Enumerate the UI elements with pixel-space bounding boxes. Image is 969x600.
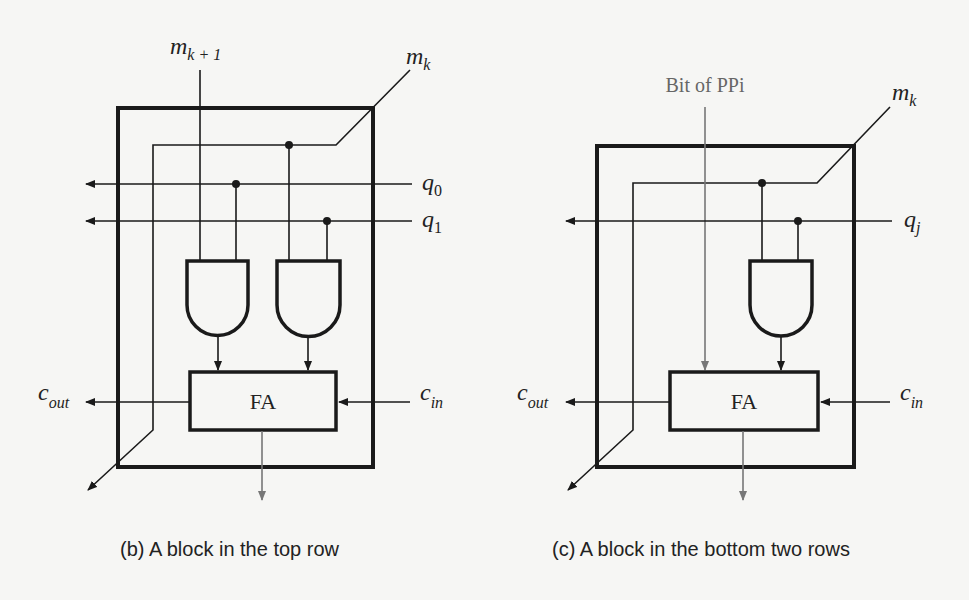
caption-c: (c) A block in the bottom two rows xyxy=(552,538,850,560)
multiplier-block-diagrams: FA mk + 1 mk q0 q1 cout cin (b) A block … xyxy=(0,0,969,600)
label-q1: q1 xyxy=(422,206,442,236)
label-mk: mk xyxy=(892,79,917,109)
junction-dot xyxy=(758,179,766,187)
mk-wire xyxy=(568,107,890,490)
label-mk: mk xyxy=(406,43,431,73)
figure-c-bottom-rows-block: FA Bit of PPi mk qj cout cin (c) A block… xyxy=(517,74,923,560)
junction-dot xyxy=(323,217,331,225)
junction-dot xyxy=(794,217,802,225)
label-cin: cin xyxy=(420,379,443,411)
and-gate-1 xyxy=(187,261,248,335)
label-cout: cout xyxy=(517,379,549,411)
block-outline xyxy=(597,146,854,467)
junction-dot xyxy=(232,180,240,188)
and-gate xyxy=(750,261,812,336)
label-mk1: mk + 1 xyxy=(170,33,221,63)
junction-dot xyxy=(285,141,293,149)
label-cout: cout xyxy=(38,379,70,411)
label-q0: q0 xyxy=(422,169,442,199)
label-cin: cin xyxy=(900,379,923,411)
label-qj: qj xyxy=(904,206,921,237)
caption-b: (b) A block in the top row xyxy=(120,538,340,560)
full-adder-label: FA xyxy=(731,389,758,414)
label-ppi-bit: Bit of PPi xyxy=(666,74,745,96)
full-adder-label: FA xyxy=(250,389,277,414)
figure-b-top-row-block: FA mk + 1 mk q0 q1 cout cin (b) A block … xyxy=(38,33,443,560)
and-gate-2 xyxy=(277,261,340,337)
